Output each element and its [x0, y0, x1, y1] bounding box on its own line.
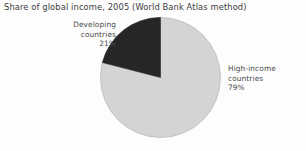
chart-title: Share of global income, 2005 (World Bank…: [4, 2, 247, 13]
pie-label-high-income-line1: High-income: [228, 64, 276, 74]
pie-label-developing-line2: countries: [73, 30, 116, 40]
pie-label-high-income-value: 79%: [228, 83, 276, 93]
pie-chart: [100, 17, 221, 138]
pie-label-high-income-line2: countries: [228, 74, 276, 84]
pie-label-high-income: High-income countries 79%: [228, 64, 276, 93]
pie-label-developing: Developing countries 21%: [73, 20, 116, 49]
pie-label-developing-line1: Developing: [73, 20, 116, 30]
pie-chart-svg: [100, 17, 221, 138]
pie-label-developing-value: 21%: [73, 39, 116, 49]
chart-figure: Share of global income, 2005 (World Bank…: [0, 0, 306, 151]
